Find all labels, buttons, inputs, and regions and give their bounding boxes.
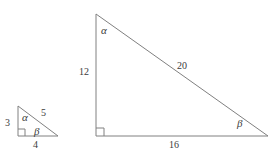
small-triangle-hypotenuse-label: 5 xyxy=(41,108,46,118)
large-triangle-hypotenuse-label: 20 xyxy=(177,61,187,71)
large-triangle-alpha-label: α xyxy=(101,25,107,36)
large-triangle-beta-label: β xyxy=(237,118,242,129)
large-triangle-vertical-leg-label: 12 xyxy=(79,67,89,77)
small-triangle-vertical-leg-label: 3 xyxy=(5,118,10,128)
large-triangle-horizontal-leg-label: 16 xyxy=(169,140,179,150)
small-triangle-alpha-label: α xyxy=(22,112,28,123)
small-triangle-right-angle-marker xyxy=(18,129,25,136)
small-triangle-horizontal-leg-label: 4 xyxy=(33,140,38,150)
geometry-figure: 3 5 4 α β 12 20 16 α β xyxy=(0,0,278,157)
large-triangle-right-angle-marker xyxy=(96,128,104,136)
small-triangle-beta-label: β xyxy=(34,126,39,137)
triangles-drawing xyxy=(0,0,278,157)
